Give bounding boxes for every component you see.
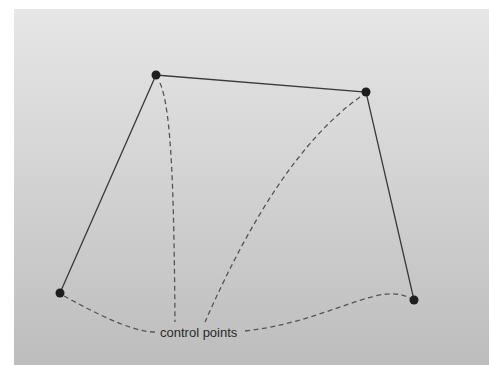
control-points-label: control points [160, 325, 238, 340]
control-points [56, 71, 419, 305]
control-point-1[interactable] [56, 289, 65, 298]
control-point-2[interactable] [152, 71, 161, 80]
control-point-3[interactable] [362, 88, 371, 97]
control-polygon-diagram: control points [0, 0, 489, 365]
leader-line-p1 [64, 296, 155, 332]
leader-line-p4 [245, 294, 410, 331]
leader-line-p3 [205, 97, 360, 322]
control-polygon [60, 75, 414, 300]
control-point-4[interactable] [410, 296, 419, 305]
leader-line-p2 [160, 83, 175, 322]
leader-lines [64, 83, 410, 332]
